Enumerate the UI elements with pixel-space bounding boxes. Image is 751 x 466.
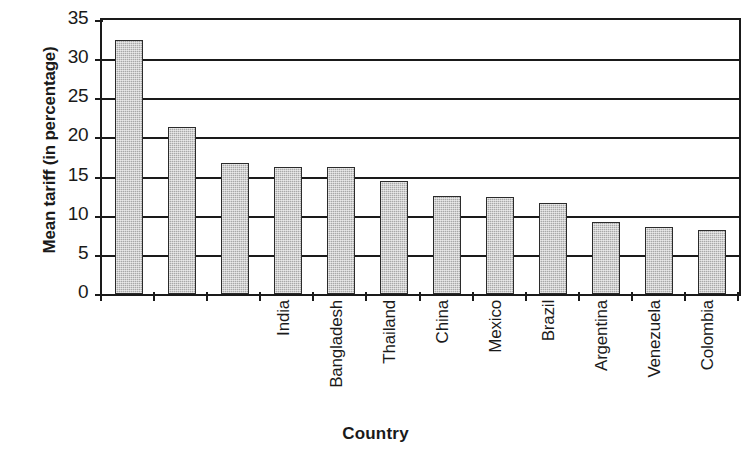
- x-label-india: India: [275, 300, 292, 440]
- bars-group: [102, 20, 739, 294]
- bar-bangladesh: [168, 127, 196, 294]
- bar-chart: Mean tariff (in percentage) 051015202530…: [0, 0, 751, 466]
- x-label-brazil: Brazil: [540, 300, 557, 440]
- x-axis-title: Country: [0, 424, 751, 444]
- x-axis-category-labels: IndiaBangladeshThailandChinaMexicoBrazil…: [100, 300, 741, 415]
- x-label-mexico: Mexico: [487, 300, 504, 440]
- x-label-argentina: Argentina: [593, 300, 610, 440]
- bar-argentina: [433, 196, 461, 294]
- y-tick-label: 5: [30, 243, 88, 262]
- y-tick-label: 30: [30, 47, 88, 66]
- bar-thailand: [221, 163, 249, 294]
- y-tick-label: 0: [30, 282, 88, 301]
- bar-malaysia: [592, 222, 620, 294]
- x-label-thailand: Thailand: [381, 300, 398, 440]
- x-label-colombia: Colombia: [699, 300, 716, 440]
- bar-venezuela: [486, 197, 514, 294]
- bar-brazil: [380, 181, 408, 294]
- x-label-china: China: [434, 300, 451, 440]
- y-tick-label: 10: [30, 204, 88, 223]
- bar-colombia: [539, 203, 567, 294]
- bar-india: [115, 40, 143, 294]
- y-tick-label: 25: [30, 86, 88, 105]
- y-tick-label: 35: [30, 8, 88, 27]
- bar-indonesia: [698, 230, 726, 294]
- y-axis-tick-labels: 05101520253035: [30, 0, 88, 466]
- bar-mexico: [327, 167, 355, 294]
- x-label-bangladesh: Bangladesh: [328, 300, 345, 440]
- x-label-venezuela: Venezuela: [646, 300, 663, 440]
- bar-china: [274, 167, 302, 294]
- y-tick-label: 15: [30, 165, 88, 184]
- y-tick-label: 20: [30, 125, 88, 144]
- bar-korea: [645, 227, 673, 294]
- plot-area: [100, 18, 741, 296]
